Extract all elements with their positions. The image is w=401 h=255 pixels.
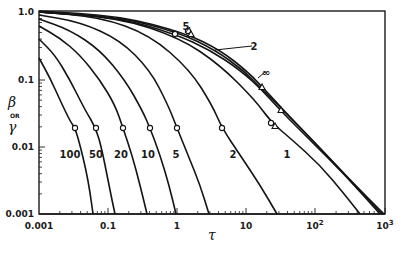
x-tick-label: 102 — [306, 219, 324, 231]
curve-5-upper- — [39, 12, 380, 214]
curve-- — [39, 11, 384, 214]
circle-marker — [268, 120, 273, 125]
circle-marker — [93, 125, 98, 130]
x-axis-title: τ — [208, 227, 216, 243]
x-tick-label: 10 — [240, 221, 253, 231]
curve-label: ∞ — [262, 67, 270, 78]
leader-line — [215, 46, 252, 50]
curve-label: 5 — [173, 149, 180, 160]
curve-label: 1 — [284, 149, 291, 160]
circle-marker — [72, 125, 77, 130]
circle-marker — [120, 125, 125, 130]
x-tick-label: 103 — [376, 219, 394, 231]
y-axis-title-or: OR — [10, 112, 20, 119]
circle-marker — [174, 125, 179, 130]
curve-20 — [39, 26, 147, 214]
curve-label: 10 — [141, 149, 155, 160]
x-tick-label: 0.1 — [100, 221, 116, 231]
y-tick-label: 0.001 — [6, 209, 34, 219]
curve-label: 5 — [183, 21, 190, 32]
curve-label: 2 — [251, 41, 258, 52]
chart: 0.0010.1110102103 1.00.10.010.001 100502… — [0, 0, 401, 255]
y-axis-title-gamma: γ — [8, 119, 17, 135]
y-axis-title-beta: β — [7, 94, 16, 110]
y-tick-label: 0.1 — [18, 75, 34, 85]
curve-labels: 10050201052152∞ — [60, 21, 291, 160]
curve-label: 2 — [230, 149, 237, 160]
circle-marker — [172, 31, 177, 36]
curve-label: 50 — [89, 149, 103, 160]
curve-100 — [39, 58, 93, 214]
curve-label: 20 — [114, 149, 128, 160]
curve-2 — [39, 12, 277, 214]
curve-label: 100 — [60, 149, 81, 160]
curve-5 — [39, 15, 209, 214]
circle-marker — [219, 125, 224, 130]
curves — [39, 11, 384, 214]
y-tick-label: 0.01 — [12, 142, 34, 152]
plot-frame — [39, 11, 385, 214]
x-tick-label: 1 — [174, 221, 180, 231]
curve-2-upper- — [39, 12, 382, 214]
y-tick-label: 1.0 — [18, 7, 34, 17]
x-tick-label: 0.001 — [25, 221, 53, 231]
circle-marker — [147, 125, 152, 130]
curve-10 — [39, 19, 176, 214]
x-axis-ticks — [39, 208, 385, 214]
